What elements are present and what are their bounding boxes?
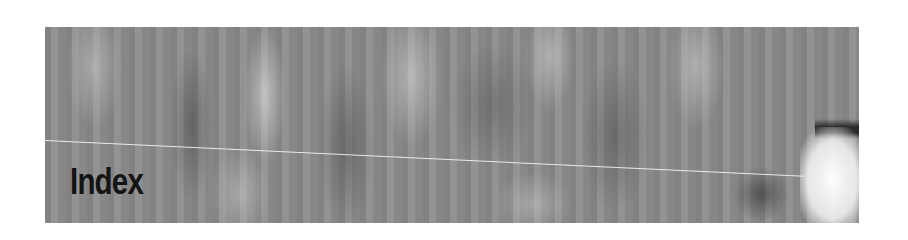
banner-highlight [800,127,859,223]
banner-texture [45,27,859,223]
index-banner: Index [45,27,859,223]
page-title: Index [70,162,143,202]
